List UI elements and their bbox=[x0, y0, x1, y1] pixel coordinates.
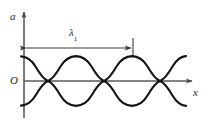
x-axis-label: x bbox=[193, 87, 198, 98]
wave-diagram-canvas bbox=[0, 0, 212, 131]
wavelength-label: λ1 bbox=[69, 27, 77, 41]
origin-label: O bbox=[10, 75, 18, 86]
standing-wave-figure: a O x λ1 bbox=[0, 0, 212, 131]
y-axis-label: a bbox=[10, 11, 16, 22]
wavelength-subscript: 1 bbox=[74, 35, 78, 43]
